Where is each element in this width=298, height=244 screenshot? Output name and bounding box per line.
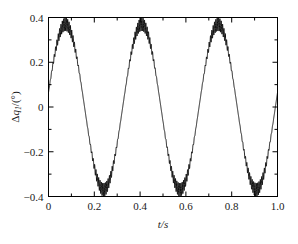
x-tick-label: 0	[46, 200, 52, 212]
x-tick-label: 0.2	[87, 200, 101, 212]
y-tick-label: −0.4	[24, 191, 44, 203]
x-axis-title: t/s	[158, 218, 168, 230]
chart-plot: 00.20.40.60.81.0 −0.4−0.200.20.4 t/s Δq1…	[0, 0, 298, 244]
x-tick-label: 0.4	[133, 200, 147, 212]
x-tick-label: 0.8	[225, 200, 239, 212]
y-tick-label: 0	[38, 101, 44, 113]
y-tick-label: 0.2	[30, 56, 44, 68]
figure-container: 00.20.40.60.81.0 −0.4−0.200.20.4 t/s Δq1…	[0, 0, 298, 244]
x-tick-label: 0.6	[179, 200, 193, 212]
y-tick-label: −0.2	[24, 146, 44, 158]
svg-text:Δq1/(°): Δq1/(°)	[9, 91, 23, 123]
y-axis-title: Δq1/(°)	[9, 91, 23, 123]
x-tick-label: 1.0	[271, 200, 285, 212]
y-tick-label: 0.4	[30, 12, 44, 24]
